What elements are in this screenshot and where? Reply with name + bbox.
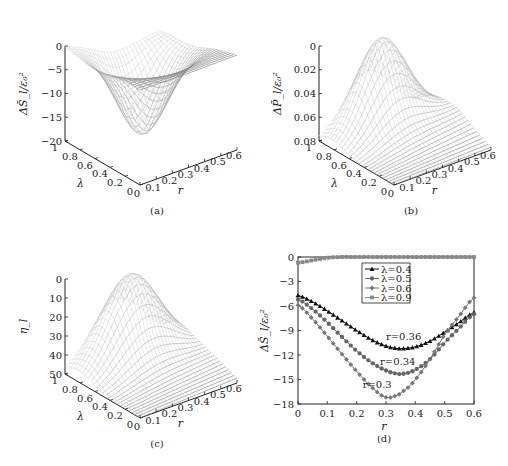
panel-b: 00.10.20.30.40.50.600.20.40.60.810.080.0…: [254, 0, 508, 233]
y-tick-label: −15: [273, 374, 294, 385]
x-tick-label: 0.6: [226, 383, 242, 394]
x-tick-label: 0.3: [178, 169, 194, 180]
line-plot-d: 00.10.20.30.40.50.60−3−6−9−12−15−18rΔS̄_…: [254, 233, 508, 466]
y-tick-label: 0.2: [107, 177, 123, 188]
panel-d: 00.10.20.30.40.50.60−3−6−9−12−15−18rΔS̄_…: [254, 233, 508, 466]
x-tick-label: 0.6: [466, 408, 482, 419]
z-tick-label: 10: [49, 293, 62, 304]
x-tick-label: 0.4: [194, 163, 210, 174]
x-tick-label: 0.2: [161, 408, 177, 419]
z-tick-label: 20: [49, 312, 62, 323]
z-tick-label: −10: [41, 88, 62, 99]
panel-c: 00.10.20.30.40.50.600.20.40.60.815040302…: [0, 233, 254, 466]
x-tick-label: 0.1: [145, 415, 161, 426]
z-tick-label: 30: [49, 331, 62, 342]
x-tick-label: 0.1: [145, 182, 161, 193]
panel-caption: (c): [150, 438, 164, 449]
curve-annotation: r=0.3: [363, 379, 392, 390]
y-tick-label: 0: [288, 252, 294, 263]
y-tick-label: 0.8: [316, 151, 332, 162]
y-tick-label: −3: [279, 276, 294, 287]
tick-labels: 00.10.20.30.40.50.600.20.40.60.810.080.0…: [294, 41, 496, 200]
x-axis-label: r: [381, 420, 387, 433]
y-tick-label: 0.8: [62, 384, 78, 395]
panel-caption: (d): [377, 433, 391, 444]
x-tick-label: 0.2: [349, 408, 365, 419]
y-axis-label: λ: [76, 177, 84, 190]
surface-mesh: [65, 31, 237, 134]
z-tick-label: 0: [56, 41, 62, 52]
x-tick-label: 0.1: [399, 182, 415, 193]
x-tick-label: 0: [134, 188, 140, 199]
y-tick-label: 0.2: [361, 177, 377, 188]
y-tick-label: 0.8: [62, 151, 78, 162]
x-tick-label: 0.3: [178, 402, 194, 413]
curve-annotation: r=0.36: [386, 331, 421, 342]
z-tick-label: 0.02: [294, 64, 316, 75]
surface-plot-c: 00.10.20.30.40.50.600.20.40.60.815040302…: [0, 233, 254, 466]
z-axis-label: ΔS̄_l/ε₀²: [17, 72, 30, 116]
x-tick-label: 0.6: [226, 150, 242, 161]
y-axis-label: ΔS̄_l/ε₀²: [258, 309, 271, 353]
z-tick-label: 0: [310, 41, 316, 52]
y-tick-label: 0.2: [107, 410, 123, 421]
x-tick-label: 0.4: [194, 396, 210, 407]
x-tick-label: 0.4: [407, 408, 423, 419]
z-axis-label: η_l: [17, 318, 30, 334]
x-tick-label: 0.3: [378, 408, 394, 419]
panel-caption: (a): [150, 205, 164, 216]
surface-plot-b: 00.10.20.30.40.50.600.20.40.60.810.080.0…: [254, 0, 508, 233]
x-tick-label: 0.4: [448, 163, 464, 174]
panel-caption: (b): [404, 205, 418, 216]
z-tick-label: −20: [41, 136, 62, 147]
x-tick-label: 0.2: [415, 175, 431, 186]
y-tick-label: 0: [127, 186, 133, 197]
z-tick-label: 0: [56, 274, 62, 285]
x-axis-label: r: [178, 417, 184, 430]
panel-a: 00.10.20.30.40.50.600.20.40.60.81−20−15−…: [0, 0, 254, 233]
y-axis-label: λ: [330, 177, 338, 190]
z-tick-label: −15: [41, 112, 62, 123]
z-tick-label: 40: [49, 350, 62, 361]
x-axis-label: r: [178, 184, 184, 197]
y-tick-label: 0: [127, 419, 133, 430]
legend-entry: λ=0.9: [381, 292, 412, 303]
y-tick-label: 0.4: [346, 168, 362, 179]
z-tick-label: 0.04: [294, 88, 316, 99]
curve-annotation: r=0.34: [380, 356, 415, 367]
surface-plot-a: 00.10.20.30.40.50.600.20.40.60.81−20−15−…: [0, 0, 254, 233]
x-tick-label: 0.5: [210, 389, 226, 400]
z-tick-label: −5: [47, 64, 62, 75]
y-tick-label: −9: [279, 325, 294, 336]
x-tick-label: 0.5: [437, 408, 453, 419]
z-axis-label: ΔP̄_l/ε₀²: [271, 72, 284, 116]
x-tick-label: 0.1: [319, 408, 335, 419]
y-tick-label: 0.4: [92, 168, 108, 179]
y-tick-label: 0.4: [92, 401, 108, 412]
y-tick-label: −18: [273, 399, 294, 410]
x-tick-label: 0.5: [464, 156, 480, 167]
y-tick-label: 0.6: [331, 160, 347, 171]
y-tick-label: 0: [381, 186, 387, 197]
y-tick-label: 0.6: [77, 393, 93, 404]
y-axis-label: λ: [76, 410, 84, 423]
x-tick-label: 0.2: [161, 175, 177, 186]
z-tick-label: 0.06: [294, 112, 316, 123]
x-tick-label: 0: [134, 421, 140, 432]
x-tick-label: 0: [295, 408, 301, 419]
x-tick-label: 0.6: [480, 150, 496, 161]
z-tick-label: 50: [49, 369, 62, 380]
x-axis-label: r: [432, 184, 438, 197]
y-tick-label: −6: [279, 301, 294, 312]
x-tick-label: 0.3: [432, 169, 448, 180]
y-tick-label: −12: [273, 350, 294, 361]
x-tick-label: 0: [388, 188, 394, 199]
x-tick-label: 0.5: [210, 156, 226, 167]
y-tick-label: 0.6: [77, 160, 93, 171]
legend: λ=0.4λ=0.5λ=0.6λ=0.9: [362, 263, 412, 303]
z-tick-label: 0.08: [294, 136, 316, 147]
